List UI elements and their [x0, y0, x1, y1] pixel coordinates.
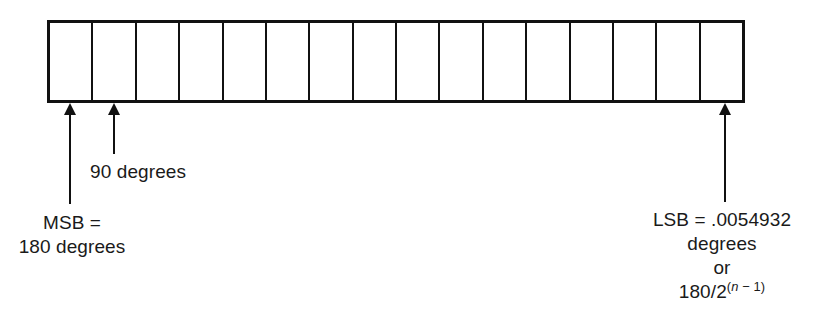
diagram-canvas: 90 degrees MSB = 180 degrees LSB = .0054…: [0, 0, 829, 333]
lsb-label-line3: or: [653, 256, 791, 280]
bit-cell: [657, 23, 700, 100]
bit-field-box: [47, 20, 745, 103]
bit-cell: [527, 23, 570, 100]
lsb-formula-exponent-variable: n: [731, 279, 738, 294]
lsb-label: LSB = .0054932 degrees or 180/2(n − 1): [653, 208, 791, 304]
bit-cell: [354, 23, 397, 100]
bit-cell: [267, 23, 310, 100]
bit-cell: [397, 23, 440, 100]
msb-label-line1: MSB =: [19, 211, 126, 235]
bit-cell: [93, 23, 136, 100]
msb-label-line2: 180 degrees: [19, 235, 126, 259]
lsb-formula-exponent-rest: − 1): [739, 279, 766, 294]
lsb-label-line1: LSB = .0054932: [653, 208, 791, 232]
bit-cell: [310, 23, 353, 100]
bit-cell: [484, 23, 527, 100]
lsb-formula-base: 180/2: [679, 281, 727, 302]
ninety-degrees-label: 90 degrees: [90, 160, 186, 184]
bit-cell: [50, 23, 93, 100]
bit-cell: [137, 23, 180, 100]
bit-cell: [440, 23, 483, 100]
lsb-label-line2: degrees: [653, 232, 791, 256]
msb-label: MSB = 180 degrees: [19, 211, 126, 259]
msb-up-arrow-icon: [69, 112, 71, 204]
bit-cell: [701, 23, 742, 100]
ninety-degrees-up-arrow-icon: [113, 112, 115, 154]
lsb-formula-exponent: (n − 1): [727, 279, 765, 294]
bit-cell: [224, 23, 267, 100]
bit-cell: [180, 23, 223, 100]
lsb-label-formula: 180/2(n − 1): [653, 280, 791, 304]
lsb-up-arrow-icon: [724, 112, 726, 202]
bit-cell: [571, 23, 614, 100]
bit-cell: [614, 23, 657, 100]
